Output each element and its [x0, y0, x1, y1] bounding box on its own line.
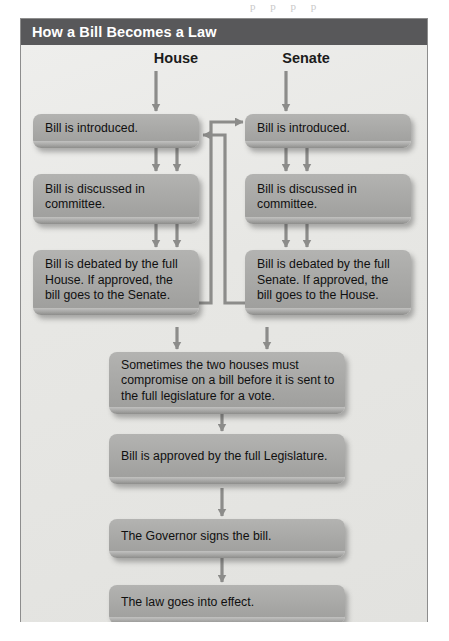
node-house-committee[interactable]: Bill is discussed in committee. [33, 174, 199, 224]
node-label: Bill is discussed in committee. [33, 182, 199, 217]
node-label: The Governor signs the bill. [109, 529, 345, 549]
column-heading-house: House [116, 50, 236, 66]
node-house-introduced[interactable]: Bill is introduced. [33, 114, 199, 148]
node-label: Bill is debated by the full Senate. If a… [245, 257, 411, 308]
figure-title-bar: How a Bill Becomes a Law [21, 19, 427, 45]
node-house-debated[interactable]: Bill is debated by the full House. If ap… [33, 250, 199, 315]
edge-house-debated-to-senate-intro [199, 122, 243, 303]
node-governor[interactable]: The Governor signs the bill. [109, 519, 345, 558]
node-label: Bill is introduced. [245, 121, 411, 141]
node-senate-introduced[interactable]: Bill is introduced. [245, 114, 411, 148]
diagram-canvas: House Senate [21, 45, 427, 622]
node-approved[interactable]: Bill is approved by the full Legislature… [109, 434, 345, 484]
scan-artifact-text: p p p p [250, 0, 449, 14]
node-label: Sometimes the two houses must compromise… [109, 358, 345, 409]
figure-frame: How a Bill Becomes a Law House Senate [20, 18, 428, 622]
edge-senate-debated-to-house-intro [203, 135, 249, 303]
node-label: Bill is introduced. [33, 121, 199, 141]
node-senate-debated[interactable]: Bill is debated by the full Senate. If a… [245, 250, 411, 315]
node-label: Bill is discussed in committee. [245, 182, 411, 217]
node-label: Bill is approved by the full Legislature… [109, 449, 345, 469]
node-label: The law goes into effect. [109, 595, 345, 615]
node-label: Bill is debated by the full House. If ap… [33, 257, 199, 308]
figure-title: How a Bill Becomes a Law [32, 24, 217, 40]
node-compromise[interactable]: Sometimes the two houses must compromise… [109, 352, 345, 414]
column-heading-senate: Senate [246, 50, 366, 66]
node-law[interactable]: The law goes into effect. [109, 585, 345, 622]
node-senate-committee[interactable]: Bill is discussed in committee. [245, 174, 411, 224]
